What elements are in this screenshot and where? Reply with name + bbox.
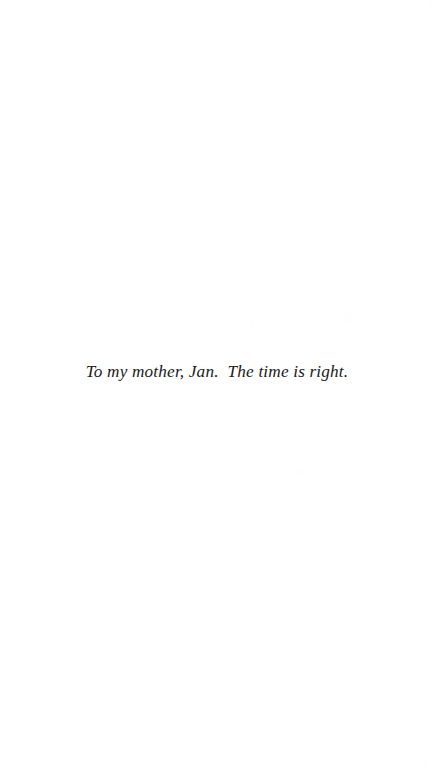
dedication-block: To my mother, Jan. The time is right.: [0, 361, 434, 383]
dedication-text: To my mother, Jan. The time is right.: [86, 361, 349, 383]
scan-artifact-speck: [293, 468, 302, 476]
scan-artifact-speck: [301, 481, 305, 485]
scan-artifact-speck: [428, 2, 432, 10]
scan-artifact-speck: [251, 322, 254, 332]
scan-artifact-speck: [147, 762, 152, 766]
dedication-page: To my mother, Jan. The time is right.: [0, 0, 434, 769]
scan-artifact-speck: [424, 760, 429, 766]
scan-artifact-speck: [345, 312, 352, 324]
scan-artifact-speck: [286, 481, 290, 485]
